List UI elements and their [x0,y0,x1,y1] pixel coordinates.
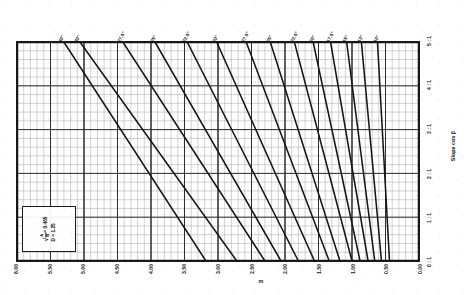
grid-layer [17,42,419,261]
x-tick-label-12: 0.00 [417,260,423,278]
nomograph-chart: 40°30°27.5°25°22.5°20°27.5°25°22.5°20°17… [0,0,470,295]
formula-value-2: = 1.25 [52,223,57,236]
formula-row-2: D = 1.25 [51,216,58,241]
formula-legend-box: √AB= 0.465 D = 1.25 [22,206,76,252]
y-tick-label-4: 1 : 1 [426,211,432,225]
x-tick-label-6: 3.00 [215,260,221,278]
y-tick-label-3: 2 : 1 [426,167,432,181]
x-tick-label-5: 3.50 [181,260,187,278]
x-tick-label-8: 2.00 [282,260,288,278]
x-tick-label-9: 1.50 [316,260,322,278]
formula-value-1: = 0.465 [43,216,48,232]
formula-row-1: √AB= 0.465 [40,216,50,241]
x-tick-label-10: 1.00 [350,260,356,278]
x-tick-label-7: 2.50 [249,260,255,278]
y-tick-label-5: 0 : 1 [426,255,432,269]
y-tick-label-2: 3 : 1 [426,122,432,136]
x-tick-label-11: 0.50 [383,260,389,278]
y-tick-label-0: 5 : 1 [426,34,432,48]
x-tick-label-1: 5.50 [47,260,53,278]
x-tick-label-4: 4.00 [148,260,154,278]
formula-symbol-d: D [52,238,57,241]
formula-legend-inner: √AB= 0.465 D = 1.25 [40,216,57,241]
radical-icon: √ [42,238,49,242]
y-tick-label-1: 4 : 1 [426,78,432,92]
fraction-a-over-b: AB [40,233,50,238]
x-tick-label-2: 5.00 [80,260,86,278]
y-axis-title: Slope cos β [450,131,456,161]
x-tick-label-3: 4.50 [114,260,120,278]
grid-and-curves-svg [17,42,419,261]
plot-area [16,41,420,262]
x-axis-title: m [258,278,263,284]
x-tick-label-0: 6.00 [13,260,19,278]
